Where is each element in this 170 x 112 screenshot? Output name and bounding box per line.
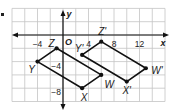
vertex-point — [125, 79, 129, 83]
x-axis-label: x — [159, 38, 166, 48]
x-tick-label: 12 — [135, 39, 145, 49]
vertex-point — [55, 46, 59, 50]
y-axis-down-arrow-icon — [61, 104, 66, 110]
vertex-label: W — [105, 79, 116, 90]
x-tick-label: −4 — [33, 39, 43, 49]
origin-label: O — [65, 37, 72, 47]
x-axis-right-arrow-icon — [163, 33, 169, 38]
vertex-label: X' — [121, 85, 132, 96]
bullet-marker — [1, 13, 4, 16]
y-axis-label: y — [65, 9, 72, 19]
vertex-label: X — [80, 92, 88, 103]
vertex-point — [144, 66, 148, 70]
tick-labels: xyO−44812−4−8 — [33, 9, 167, 97]
parallelogram-outline — [38, 48, 102, 88]
vertex-point — [80, 86, 84, 90]
vertex-label: Z — [48, 38, 56, 49]
grid-lines — [12, 8, 165, 101]
x-axis-left-arrow-icon — [12, 33, 18, 38]
vertex-label: Z' — [97, 26, 107, 37]
vertex-point — [99, 40, 103, 44]
y-tick-label: −8 — [51, 87, 61, 97]
parallelograms: WXYZW'X'Y'Z' — [28, 26, 163, 103]
vertex-label: W' — [151, 65, 163, 76]
coordinate-plane-figure: xyO−44812−4−8 WXYZW'X'Y'Z' — [0, 0, 170, 112]
vertex-label: Y' — [75, 43, 85, 54]
y-axis-up-arrow-icon — [61, 10, 66, 16]
x-tick-label: 4 — [86, 39, 91, 49]
vertex-point — [35, 60, 39, 64]
vertex-point — [99, 73, 103, 77]
coordinate-plane: xyO−44812−4−8 WXYZW'X'Y'Z' — [0, 0, 170, 112]
y-tick-label: −4 — [51, 61, 61, 71]
vertex-label: Y — [28, 64, 36, 75]
